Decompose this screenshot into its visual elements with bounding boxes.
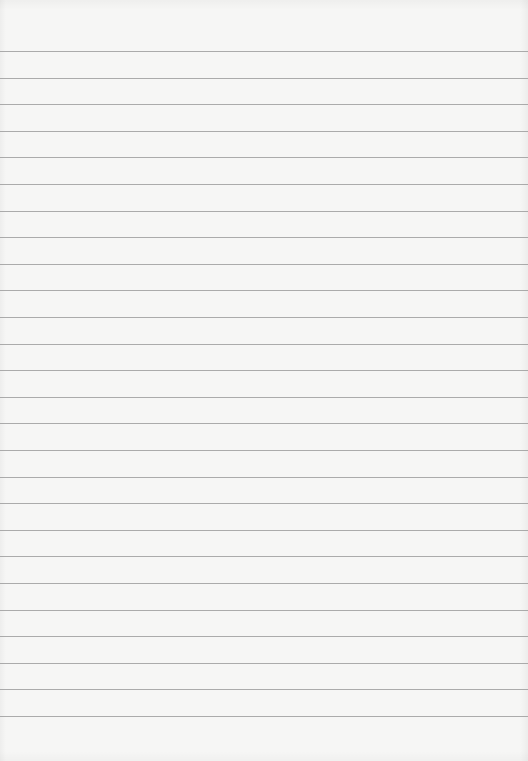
- ruled-line: [0, 290, 528, 291]
- ruled-line: [0, 157, 528, 158]
- ruled-line: [0, 370, 528, 371]
- ruled-line: [0, 663, 528, 664]
- ruled-line: [0, 78, 528, 79]
- ruled-line: [0, 211, 528, 212]
- ruled-line: [0, 503, 528, 504]
- ruled-line: [0, 131, 528, 132]
- ruled-line: [0, 51, 528, 52]
- ruled-line: [0, 184, 528, 185]
- ruled-line: [0, 317, 528, 318]
- ruled-line: [0, 397, 528, 398]
- ruled-line: [0, 477, 528, 478]
- lined-paper-sheet: [0, 0, 528, 761]
- ruled-line: [0, 264, 528, 265]
- ruled-line: [0, 423, 528, 424]
- ruled-line: [0, 636, 528, 637]
- ruled-line: [0, 237, 528, 238]
- ruled-line: [0, 556, 528, 557]
- ruled-line: [0, 450, 528, 451]
- ruled-line: [0, 583, 528, 584]
- ruled-line: [0, 716, 528, 717]
- ruled-line: [0, 689, 528, 690]
- ruled-line: [0, 610, 528, 611]
- ruled-line: [0, 104, 528, 105]
- ruled-line: [0, 344, 528, 345]
- ruled-line: [0, 530, 528, 531]
